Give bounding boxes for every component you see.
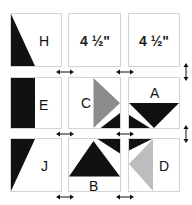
double-arrow-horizontal-icon: [116, 193, 134, 201]
block-a: A: [128, 77, 180, 129]
double-arrow-horizontal-icon: [56, 193, 74, 201]
block-j: J: [10, 138, 62, 192]
double-arrow-vertical-icon: [182, 63, 190, 81]
black-rectangle-shape: [11, 78, 61, 128]
block-size-1: 4 ½": [68, 13, 121, 67]
double-arrow-horizontal-icon: [56, 68, 74, 76]
block-b: B: [68, 138, 121, 192]
block-label: B: [89, 179, 98, 192]
dimension-label: 4 ½": [139, 34, 169, 48]
block-d: D: [128, 138, 180, 192]
block-label: E: [39, 98, 48, 112]
block-size-2: 4 ½": [128, 13, 180, 67]
black-triangle-shape: [11, 139, 61, 191]
block-h: H: [10, 13, 62, 67]
block-label: H: [39, 34, 49, 48]
block-e: E: [10, 77, 62, 129]
double-arrow-horizontal-icon: [116, 68, 134, 76]
gray-triangle-shape: [69, 78, 120, 128]
block-label: A: [150, 86, 159, 100]
gray-triangle-shape: [129, 139, 179, 191]
block-label: J: [41, 159, 48, 173]
block-c: C: [68, 77, 121, 129]
double-arrow-vertical-icon: [182, 125, 190, 143]
block-label: C: [81, 96, 91, 110]
black-triangle-shape: [11, 14, 61, 66]
dimension-label: 4 ½": [80, 34, 110, 48]
double-arrow-horizontal-icon: [116, 130, 134, 138]
double-arrow-horizontal-icon: [56, 130, 74, 138]
block-label: D: [159, 159, 169, 173]
